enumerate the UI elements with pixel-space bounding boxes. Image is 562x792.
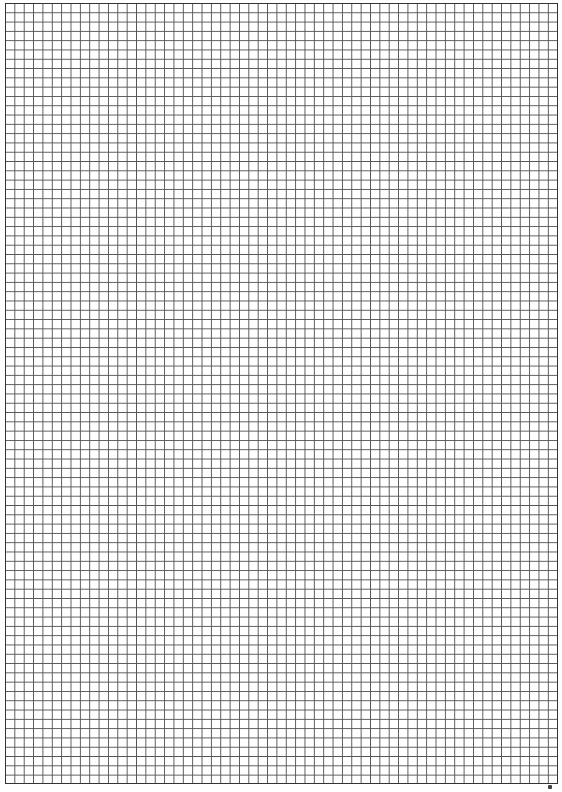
corner-mark (548, 785, 552, 789)
graph-paper-grid (5, 3, 558, 784)
